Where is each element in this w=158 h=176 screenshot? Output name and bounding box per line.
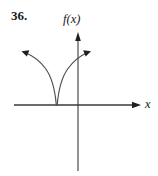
curve-left-path [26, 53, 57, 105]
x-axis-arrow-icon [132, 102, 141, 108]
graph-plot [0, 0, 158, 176]
figure-container: 36. f(x) x [0, 0, 158, 176]
curve-right-path [57, 53, 87, 105]
y-axis [75, 32, 81, 171]
curve-left-branch [22, 50, 57, 105]
curve-right-branch [57, 50, 91, 105]
y-axis-arrow-icon [75, 32, 81, 41]
curve-right-arrow-icon [83, 50, 91, 56]
